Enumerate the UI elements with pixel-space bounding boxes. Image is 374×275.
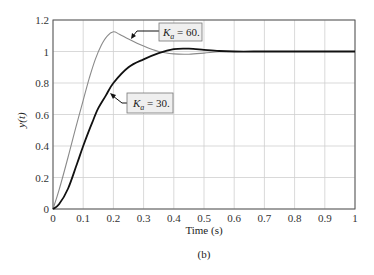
x-tick-label: 0.6 xyxy=(227,212,241,224)
x-tick-label: 1 xyxy=(352,212,358,224)
step-response-chart: 00.10.20.30.40.50.60.70.80.91 00.20.40.6… xyxy=(0,0,374,275)
y-tick-label: 0.2 xyxy=(35,172,49,184)
arrow-leader-ka-30 xyxy=(113,96,127,103)
x-tick-label: 0.2 xyxy=(107,212,121,224)
y-tick-label: 0 xyxy=(44,203,50,215)
x-tick-label: 0.7 xyxy=(258,212,272,224)
x-tick-label: 0 xyxy=(50,212,56,224)
x-tick-label: 0.4 xyxy=(167,212,181,224)
x-tick-label: 0.1 xyxy=(76,212,90,224)
y-tick-label: 1 xyxy=(44,46,50,58)
arrow-leader-ka-60 xyxy=(133,31,159,36)
y-axis-label: y(t) xyxy=(15,112,28,129)
grid-lines xyxy=(53,20,355,209)
x-axis-ticks: 00.10.20.30.40.50.60.70.80.91 xyxy=(50,212,358,224)
x-tick-label: 0.3 xyxy=(137,212,151,224)
y-tick-label: 0.6 xyxy=(35,109,49,121)
x-tick-label: 0.8 xyxy=(288,212,302,224)
x-axis-label: Time (s) xyxy=(185,224,223,237)
annotation-ka-30: Ka = 30. xyxy=(110,93,173,113)
y-tick-label: 1.2 xyxy=(35,14,49,26)
annotation-ka-60: Ka = 60. xyxy=(131,23,202,41)
figure-caption: (b) xyxy=(198,248,211,261)
y-tick-label: 0.4 xyxy=(35,140,49,152)
y-tick-label: 0.8 xyxy=(35,77,49,89)
x-tick-label: 0.9 xyxy=(318,212,332,224)
x-tick-label: 0.5 xyxy=(197,212,211,224)
y-axis-ticks: 00.20.40.60.811.2 xyxy=(35,14,49,215)
